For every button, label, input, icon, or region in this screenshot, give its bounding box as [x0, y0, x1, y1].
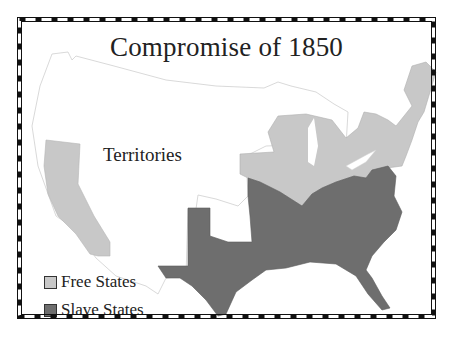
map-frame: Compromise of 1850 Territories Free Stat…: [16, 16, 437, 320]
dashed-frame-border: [16, 16, 437, 320]
